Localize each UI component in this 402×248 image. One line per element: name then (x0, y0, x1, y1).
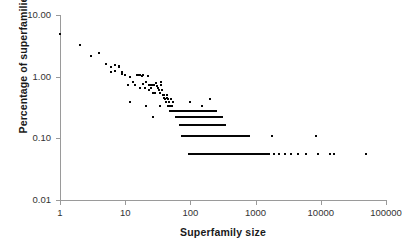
x-axis-tick-label: 10 (120, 207, 131, 218)
data-point (315, 135, 317, 137)
data-point (333, 153, 335, 155)
data-point (170, 98, 172, 100)
data-point (271, 135, 273, 137)
data-point (215, 110, 217, 112)
x-axis-tick (386, 201, 387, 205)
data-point (365, 153, 367, 155)
x-axis-line (60, 200, 387, 201)
data-point (110, 71, 112, 73)
data-point (273, 153, 275, 155)
data-point (305, 153, 307, 155)
data-point (150, 87, 152, 89)
data-point (166, 94, 168, 96)
x-axis-tick (125, 201, 126, 205)
data-point (172, 101, 174, 103)
data-point (317, 153, 319, 155)
x-axis-tick-label: 1 (57, 207, 62, 218)
x-axis-title: Superfamily size (60, 226, 386, 238)
data-point (163, 94, 165, 96)
data-point (90, 55, 92, 57)
data-point (145, 105, 147, 107)
data-point (152, 116, 154, 118)
data-point (221, 116, 223, 118)
data-point (98, 52, 100, 54)
data-point (134, 84, 136, 86)
y-axis-title: Percentage of superfamilies (17, 0, 29, 147)
data-point (114, 64, 116, 66)
x-axis-tick-label: 1000 (245, 207, 266, 218)
x-axis-tick (190, 201, 191, 205)
data-point (153, 84, 155, 86)
data-point (144, 87, 146, 89)
data-point (129, 76, 131, 78)
data-point (278, 153, 280, 155)
data-point (127, 84, 129, 86)
data-point (118, 66, 120, 68)
x-axis-tick (321, 201, 322, 205)
data-point (201, 105, 203, 107)
data-point (224, 124, 226, 126)
x-axis-tick-label: 100000 (370, 207, 402, 218)
data-point (248, 135, 250, 137)
data-point (297, 153, 299, 155)
data-point (171, 105, 173, 107)
data-point (79, 44, 81, 46)
data-point (160, 84, 162, 86)
data-point (124, 74, 126, 76)
data-point (110, 66, 112, 68)
data-point (155, 82, 157, 84)
data-point (159, 105, 161, 107)
data-point (148, 89, 150, 91)
data-point (145, 81, 147, 83)
data-point (154, 92, 156, 94)
y-axis-tick-label: 0.01 (33, 194, 52, 205)
data-point (268, 153, 270, 155)
data-point (129, 101, 131, 103)
data-point (189, 101, 191, 103)
data-point (284, 153, 286, 155)
x-axis-tick (256, 201, 257, 205)
data-point (159, 92, 161, 94)
data-point (209, 98, 211, 100)
x-axis-tick-label: 100 (182, 207, 198, 218)
data-point (59, 33, 61, 35)
y-axis-tick-label: 10.00 (27, 9, 51, 20)
data-point (161, 89, 163, 91)
data-point (290, 153, 292, 155)
data-point (165, 101, 167, 103)
data-point (142, 83, 144, 85)
x-axis-tick-label: 10000 (308, 207, 334, 218)
y-axis-tick-label: 1.00 (33, 71, 52, 82)
data-point (142, 74, 144, 76)
data-point (105, 63, 107, 65)
data-point (139, 87, 141, 89)
data-point (121, 73, 123, 75)
y-axis-tick-label: 0.10 (33, 132, 52, 143)
data-point (132, 81, 134, 83)
data-point (160, 81, 162, 83)
data-point (329, 153, 331, 155)
x-axis-tick (60, 201, 61, 205)
plot-area (60, 15, 386, 200)
data-point (114, 70, 116, 72)
data-point (147, 75, 149, 77)
data-point (168, 101, 170, 103)
